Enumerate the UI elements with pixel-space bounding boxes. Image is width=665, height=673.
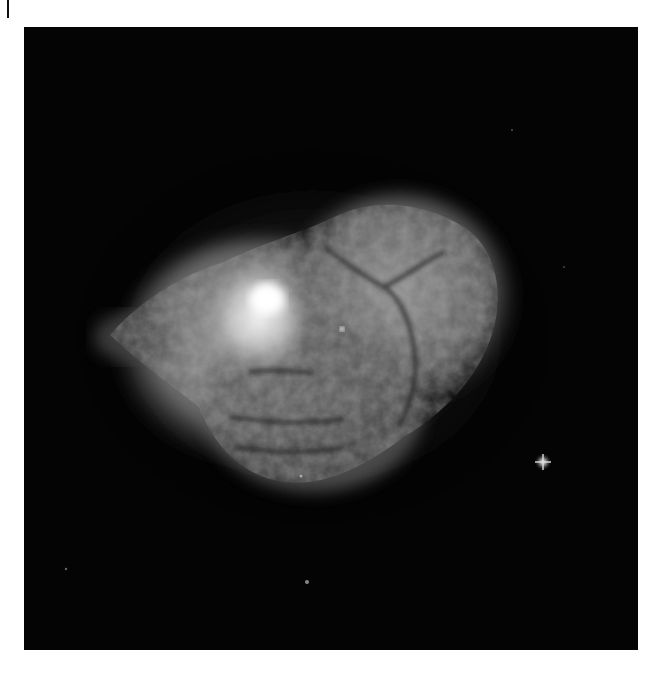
nebula-image bbox=[24, 27, 638, 650]
text-cursor-mark bbox=[7, 0, 9, 18]
nebula-graphic bbox=[24, 27, 638, 650]
